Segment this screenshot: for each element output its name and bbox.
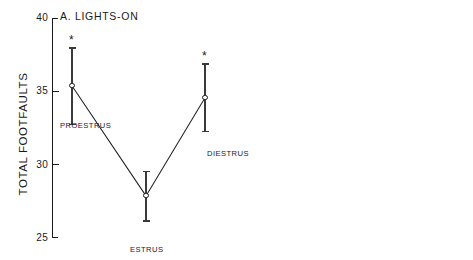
error-bar-cap-upper: [69, 47, 76, 48]
error-bar-cap-upper: [202, 63, 209, 64]
data-point-marker: [202, 95, 207, 100]
error-bar-cap-upper: [143, 171, 150, 172]
figure-canvas: TOTAL FOOTFAULTS A. LIGHTS-ON 25303540*P…: [0, 0, 473, 260]
axis-serif: [53, 237, 58, 238]
y-axis-tick-label: 30: [22, 159, 48, 170]
y-axis-tick-label: 40: [22, 12, 48, 23]
y-axis-tick: [53, 164, 59, 165]
panel-b-lights-off: B. LIGHTS-OFF 45505560PROESTRUSESTRUS*DI…: [236, 0, 473, 260]
significance-asterisk: *: [69, 34, 74, 46]
data-point-marker: [143, 193, 148, 198]
panel-a-lights-on: A. LIGHTS-ON 25303540*PROESTRUSESTRUS*DI…: [0, 0, 236, 260]
data-line-segment: [146, 97, 206, 196]
error-bar-cap-lower: [202, 131, 209, 132]
y-axis-tick: [53, 91, 59, 92]
significance-asterisk: *: [202, 50, 207, 62]
panel-a-title: A. LIGHTS-ON: [60, 10, 138, 22]
axis-serif: [53, 18, 58, 19]
y-axis-tick-label: 25: [22, 232, 48, 243]
y-axis-line: [52, 18, 53, 238]
error-bar-cap-lower: [143, 220, 150, 221]
y-axis-tick-label: 35: [22, 85, 48, 96]
data-point-marker: [69, 83, 74, 88]
category-label: PROESTRUS: [60, 121, 111, 130]
category-label: ESTRUS: [130, 245, 164, 254]
data-line-segment: [71, 85, 146, 196]
